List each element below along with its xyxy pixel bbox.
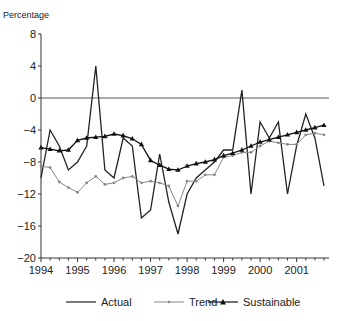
svg-text:−4: −4 (23, 124, 36, 136)
svg-text:1998: 1998 (175, 264, 199, 276)
legend-label-sustainable: Sustainable (243, 296, 301, 308)
legend-item-sustainable: Sustainable (208, 296, 301, 308)
svg-text:−12: −12 (17, 188, 36, 200)
series-layer (38, 66, 326, 234)
svg-text:2001: 2001 (284, 264, 308, 276)
actual-line-icon (66, 298, 96, 306)
svg-text:−8: −8 (23, 156, 36, 168)
svg-text:2000: 2000 (248, 264, 272, 276)
svg-text:−16: −16 (17, 220, 36, 232)
svg-text:−20: −20 (17, 252, 36, 264)
svg-text:1999: 1999 (211, 264, 235, 276)
legend-label-actual: Actual (101, 296, 132, 308)
sustainable-line-icon (208, 298, 238, 306)
line-chart: 840−4−8−12−16−20199419951996199719981999… (0, 0, 341, 290)
svg-text:1996: 1996 (102, 264, 126, 276)
svg-text:8: 8 (30, 28, 36, 40)
legend-item-actual: Actual (66, 296, 132, 308)
svg-text:1995: 1995 (65, 264, 89, 276)
svg-text:1997: 1997 (138, 264, 162, 276)
svg-text:4: 4 (30, 60, 36, 72)
svg-text:0: 0 (30, 92, 36, 104)
svg-text:1994: 1994 (29, 264, 53, 276)
trend-line-icon (154, 298, 184, 306)
